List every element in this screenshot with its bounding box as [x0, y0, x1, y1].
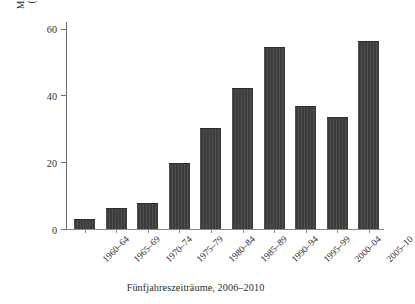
plot-area: 0204060: [66, 22, 384, 230]
x-axis-tick-label: 1965–69: [132, 234, 162, 264]
x-axis-line: [66, 229, 384, 230]
x-axis-tick: [337, 230, 338, 233]
bar[interactable]: [264, 47, 285, 229]
x-axis-tick-label: 1970–74: [163, 234, 193, 264]
bar[interactable]: [200, 128, 221, 229]
bar[interactable]: [232, 88, 253, 229]
y-axis-title-line-1: Mittlere Entwicklungshilfe pro Kopf: [16, 0, 27, 9]
x-axis-tick-label: 1980–84: [227, 234, 257, 264]
y-axis-tick-label: 40: [47, 90, 57, 101]
x-axis-tick: [274, 230, 275, 233]
y-axis-line: [66, 22, 67, 230]
y-axis-tick-label: 60: [47, 24, 57, 35]
x-axis-tick-label: 1985–89: [258, 234, 288, 264]
bar[interactable]: [358, 41, 379, 229]
x-axis-tick-label: 1995–99: [321, 234, 351, 264]
bar[interactable]: [106, 208, 127, 229]
y-axis-tick-label: 0: [52, 224, 57, 235]
y-axis-tick: 40: [61, 95, 66, 96]
x-axis-tick: [211, 230, 212, 233]
y-axis-tick: 20: [61, 162, 66, 163]
y-axis-tick: 0: [61, 229, 66, 230]
y-axis-tick-label: 20: [47, 157, 57, 168]
x-axis-tick: [85, 230, 86, 233]
bar[interactable]: [74, 219, 95, 229]
x-axis-tick: [179, 230, 180, 233]
x-axis-tick: [369, 230, 370, 233]
bar[interactable]: [169, 163, 190, 229]
x-axis-tick-label: 2005–10: [385, 234, 415, 264]
x-axis-tick: [148, 230, 149, 233]
x-axis-tick: [116, 230, 117, 233]
x-axis-tick: [243, 230, 244, 233]
bar[interactable]: [137, 203, 158, 229]
x-axis-tick-label: 2000–04: [353, 234, 383, 264]
y-axis-title: Mittlere Entwicklungshilfe pro Kopf (US-…: [10, 0, 44, 48]
x-axis-tick-label: 1975–79: [195, 234, 225, 264]
bar[interactable]: [327, 117, 348, 230]
x-axis-tick-label: 1990–94: [290, 234, 320, 264]
x-axis-title: Fünfjahreszeiträume, 2006–2010: [0, 282, 391, 293]
y-axis-tick: 60: [61, 29, 66, 30]
x-axis-tick-label: 1960–64: [100, 234, 130, 264]
bar[interactable]: [295, 106, 316, 229]
x-axis-tick: [306, 230, 307, 233]
y-axis-title-line-2: (US-Dollar) für Subsahara-Afrika: [27, 0, 38, 4]
